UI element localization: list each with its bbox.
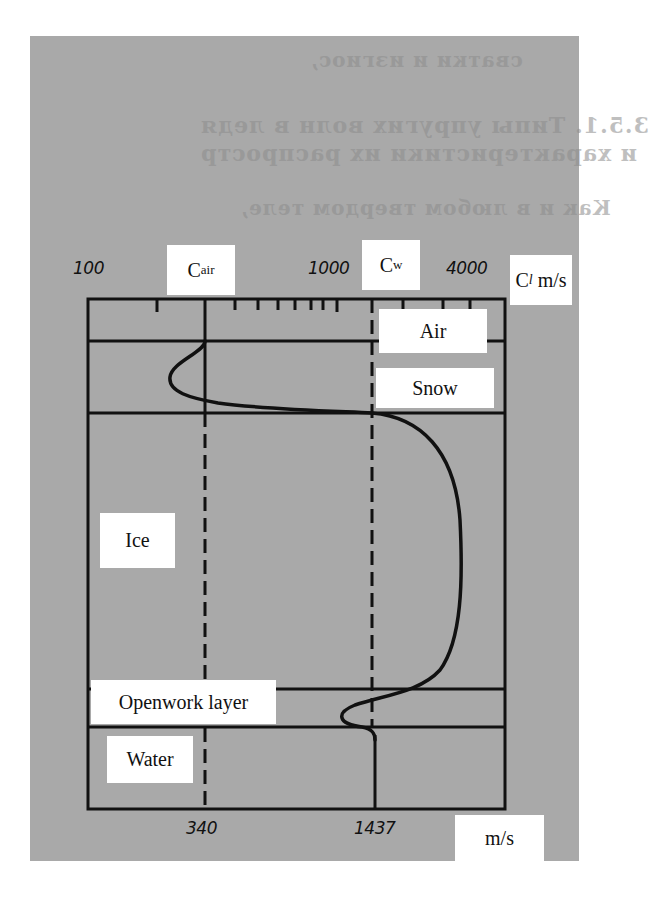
bottom-tick-340: 340 bbox=[186, 818, 217, 838]
layer-label-ice: Ice bbox=[100, 513, 175, 568]
layer-label-water: Water bbox=[107, 736, 193, 783]
layer-label-snow: Snow bbox=[376, 368, 494, 408]
c-air-label: Cair bbox=[167, 245, 235, 295]
c-l-axis-label: Cl m/s bbox=[510, 255, 572, 305]
layer-label-air: Air bbox=[379, 309, 487, 353]
top-tick-100: 100 bbox=[73, 258, 104, 278]
bottom-tick-1437: 1437 bbox=[354, 818, 395, 838]
layer-label-openwork: Openwork layer bbox=[91, 680, 276, 724]
top-tick-1000: 1000 bbox=[308, 258, 349, 278]
bottom-unit-label: m/s bbox=[455, 815, 544, 861]
c-w-label: Cw bbox=[362, 240, 420, 290]
top-tick-4000: 4000 bbox=[446, 258, 487, 278]
